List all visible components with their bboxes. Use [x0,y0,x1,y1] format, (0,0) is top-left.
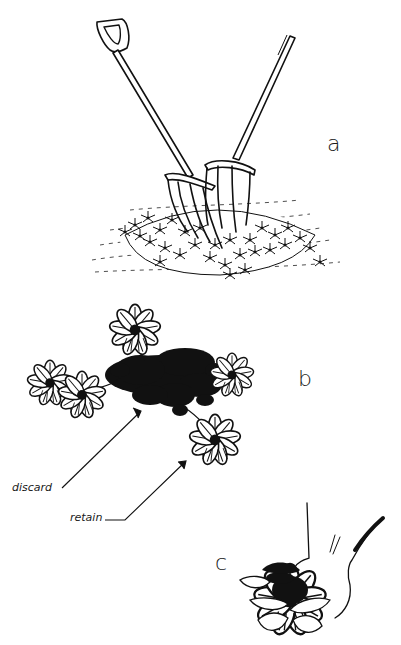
panel-label-a: a [327,133,340,155]
panel-a-art [92,19,340,279]
annotation-retain: retain [70,512,102,523]
annotation-discard: discard [12,482,52,493]
panel-label-c: c [215,552,227,574]
illustration: a b c discard retain [0,0,401,645]
panel-c-art [240,503,383,637]
panel-label-b: b [298,368,312,390]
panel-b-art [27,304,255,520]
line-art [0,0,401,645]
